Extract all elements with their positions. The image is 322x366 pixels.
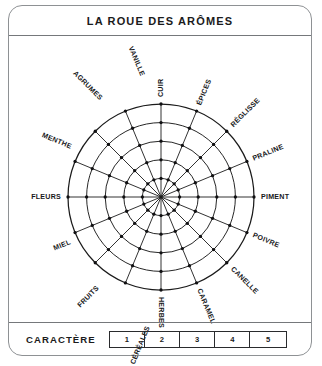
wheel-node	[188, 264, 191, 267]
wheel-node	[152, 213, 155, 216]
wheel-node	[197, 195, 200, 198]
wheel-node	[94, 130, 97, 133]
wheel-node	[199, 235, 202, 238]
wheel-node	[108, 217, 111, 220]
wheel-node	[166, 178, 169, 181]
wheel-node	[174, 161, 177, 164]
wheel-node	[234, 195, 237, 198]
wheel-node	[138, 247, 141, 250]
scale-cell-5[interactable]: 5	[250, 332, 285, 347]
caractere-scale: 12345	[109, 331, 287, 348]
wheel-node	[225, 261, 228, 264]
aroma-wheel-card: LA ROUE DES ARÔMES CUIRÉPICESRÉGLISSEPRA…	[8, 5, 312, 356]
wheel-spoke	[95, 197, 161, 263]
wheel-node	[159, 270, 162, 273]
wheel-node	[159, 102, 162, 105]
wheel-node	[177, 202, 180, 205]
wheel-node	[125, 210, 128, 213]
aroma-wheel: CUIRÉPICESRÉGLISSEPRALINEPIMENTPOIVRECAN…	[9, 36, 313, 324]
wheel-spoke	[161, 197, 227, 263]
wheel-node	[199, 156, 202, 159]
wheel-node	[225, 130, 228, 133]
wheel-node	[145, 230, 148, 233]
wheel-node	[131, 127, 134, 130]
wheel-node	[142, 188, 145, 191]
wheel-node	[173, 209, 176, 212]
scale-cell-1[interactable]: 1	[110, 332, 145, 347]
wheel-node	[186, 169, 189, 172]
card-footer: CARACTÈRE 12345	[9, 322, 311, 355]
wheel-node	[124, 281, 127, 284]
wheel-node	[245, 160, 248, 163]
wheel-node	[212, 248, 215, 251]
wheel-node	[211, 174, 214, 177]
wheel-node	[228, 224, 231, 227]
wheel-node	[252, 195, 255, 198]
scale-cell-2[interactable]: 2	[145, 332, 180, 347]
wheel-node	[73, 231, 76, 234]
wheel-spoke	[95, 131, 161, 197]
wheel-node	[146, 209, 149, 212]
wheel-node	[245, 231, 248, 234]
wheel-node	[125, 181, 128, 184]
scale-cell-4[interactable]: 4	[215, 332, 250, 347]
wheel-node	[141, 195, 144, 198]
wheel-node	[94, 261, 97, 264]
wheel-node	[195, 281, 198, 284]
wheel-node	[159, 251, 162, 254]
wheel-node	[145, 161, 148, 164]
wheel-node	[131, 264, 134, 267]
wheel-node	[73, 160, 76, 163]
wheel-node	[159, 177, 162, 180]
wheel-node	[181, 247, 184, 250]
wheel-node	[173, 182, 176, 185]
wheel-node	[66, 195, 69, 198]
wheel-node	[195, 109, 198, 112]
caractere-label: CARACTÈRE	[26, 334, 96, 345]
wheel-graphic	[9, 36, 313, 324]
wheel-node	[177, 188, 180, 191]
wheel-node	[122, 195, 125, 198]
wheel-node	[104, 195, 107, 198]
wheel-node	[174, 230, 177, 233]
wheel-node	[91, 224, 94, 227]
wheel-node	[108, 174, 111, 177]
wheel-node	[91, 167, 94, 170]
wheel-node	[188, 127, 191, 130]
wheel-node	[124, 109, 127, 112]
wheel-node	[178, 195, 181, 198]
wheel-node	[228, 167, 231, 170]
wheel-spoke	[161, 131, 227, 197]
wheel-node	[215, 195, 218, 198]
wheel-node	[159, 214, 162, 217]
wheel-node	[120, 235, 123, 238]
scale-cell-3[interactable]: 3	[180, 332, 215, 347]
wheel-node	[186, 222, 189, 225]
wheel-node	[212, 143, 215, 146]
wheel-node	[211, 217, 214, 220]
wheel-node	[138, 144, 141, 147]
wheel-node	[159, 140, 162, 143]
wheel-node	[159, 158, 162, 161]
wheel-node	[159, 121, 162, 124]
wheel-node	[194, 210, 197, 213]
wheel-node	[166, 213, 169, 216]
wheel-node	[107, 248, 110, 251]
wheel-node	[120, 156, 123, 159]
wheel-node	[146, 182, 149, 185]
wheel-node	[181, 144, 184, 147]
wheel-node	[107, 143, 110, 146]
wheel-node	[133, 222, 136, 225]
wheel-node	[159, 288, 162, 291]
wheel-node	[133, 169, 136, 172]
wheel-node	[152, 178, 155, 181]
wheel-node	[142, 202, 145, 205]
wheel-node	[159, 233, 162, 236]
card-header: LA ROUE DES ARÔMES	[9, 6, 311, 36]
wheel-node	[194, 181, 197, 184]
page-title: LA ROUE DES ARÔMES	[87, 15, 233, 27]
wheel-node	[85, 195, 88, 198]
